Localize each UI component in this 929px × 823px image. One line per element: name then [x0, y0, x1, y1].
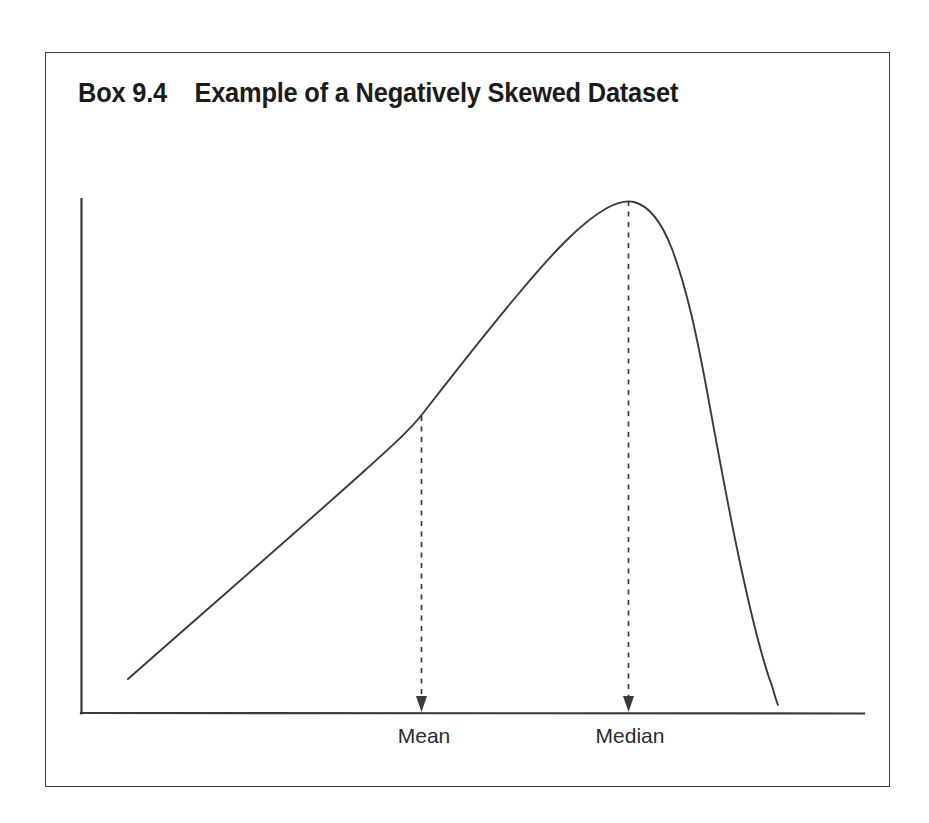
- axis-label-mean: Mean: [364, 724, 484, 748]
- page-title: Box 9.4 Example of a Negatively Skewed D…: [78, 78, 792, 112]
- axis-label-median: Median: [570, 724, 690, 748]
- figure-root: Box 9.4 Example of a Negatively Skewed D…: [0, 0, 929, 823]
- figure-border-frame: [45, 52, 890, 787]
